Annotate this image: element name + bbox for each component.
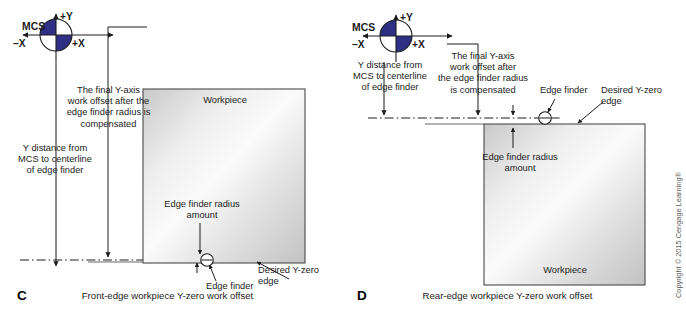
mcs-label-d: MCS <box>352 22 375 33</box>
label-desired-zero-d: Desired Y-zero edge <box>601 85 677 107</box>
axis-plus-x-label-d: +X <box>412 39 425 50</box>
caption-c: Front-edge workpiece Y-zero work offset <box>60 290 275 301</box>
mcs-label-c: MCS <box>22 21 45 32</box>
workpiece-label-c: Workpiece <box>166 95 284 106</box>
leader-edge-finder-c <box>210 265 217 281</box>
leader-desired-zero-d <box>578 102 603 123</box>
figure-root: MCS +Y –X +X The final Y-axis work offse… <box>0 0 686 321</box>
axis-minus-x-label-d: –X <box>352 39 365 50</box>
axis-plus-x-label-c: +X <box>72 38 85 49</box>
panel-letter-d: D <box>357 288 367 303</box>
workpiece-label-d: Workpiece <box>506 265 624 276</box>
note-radius-amount-d: Edge finder radius amount <box>470 152 570 174</box>
axis-plus-y-label-c: +Y <box>60 11 73 22</box>
workpiece-rect-d <box>484 124 645 285</box>
copyright-notice: Copyright © 2015 Cengage Learning® <box>674 172 683 298</box>
note-final-offset-c: The final Y-axis work offset after the e… <box>56 85 161 130</box>
caption-d: Rear-edge workpiece Y-zero work offset <box>400 290 615 301</box>
label-desired-zero-c: Desired Y-zero edge <box>258 265 330 287</box>
label-edge-finder-d: Edge finder <box>540 85 588 96</box>
leader-edge-finder-d <box>548 99 555 112</box>
axis-plus-y-label-d: +Y <box>400 12 413 23</box>
note-y-distance-d: Y distance from MCS to centerline of edg… <box>340 60 440 94</box>
panel-letter-c: C <box>17 288 27 303</box>
workpiece-rect-c <box>143 89 305 263</box>
note-y-distance-c: Y distance from MCS to centerline of edg… <box>5 143 105 177</box>
note-final-offset-d: The final Y-axis work offset after the e… <box>427 51 539 96</box>
note-radius-amount-c: Edge finder radius amount <box>152 199 252 221</box>
axis-minus-x-label-c: –X <box>13 38 26 49</box>
